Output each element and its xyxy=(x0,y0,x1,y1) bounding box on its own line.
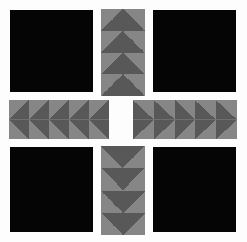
arrow-right-icon xyxy=(49,100,69,139)
arrow-right-icon xyxy=(9,100,29,139)
arrow-down-icon xyxy=(101,53,145,75)
solid-panel-top-right xyxy=(153,10,236,92)
arrow-up-icon xyxy=(101,146,145,168)
arrow-left-icon xyxy=(175,100,196,139)
arrow-right-icon xyxy=(89,100,109,139)
arrow-down-icon xyxy=(101,9,145,31)
pattern-canvas xyxy=(0,0,247,242)
arrow-up-icon xyxy=(101,213,145,235)
arrow-strip-middle-left xyxy=(9,100,109,139)
arrow-up-icon xyxy=(101,168,145,190)
arrow-up-icon xyxy=(101,191,145,213)
arrow-left-icon xyxy=(195,100,216,139)
solid-panel-bottom-right xyxy=(153,147,236,232)
solid-panel-top-left xyxy=(10,10,93,92)
arrow-strip-middle-right xyxy=(133,100,237,139)
arrow-left-icon xyxy=(154,100,175,139)
solid-panel-bottom-left xyxy=(10,147,93,232)
arrow-right-icon xyxy=(69,100,89,139)
arrow-right-icon xyxy=(29,100,49,139)
arrow-down-icon xyxy=(101,31,145,53)
arrow-down-icon xyxy=(101,74,145,96)
arrow-strip-bottom-center xyxy=(101,146,145,235)
arrow-left-icon xyxy=(216,100,237,139)
arrow-left-icon xyxy=(133,100,154,139)
arrow-strip-top-center xyxy=(101,9,145,96)
